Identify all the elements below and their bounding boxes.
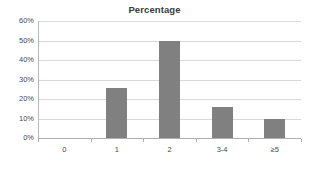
y-axis-tick-label: 0% [2,134,34,142]
x-axis-tick-label: 0 [62,145,66,154]
x-axis-tick-label: ≥5 [271,145,279,154]
x-axis-tick-mark [248,139,249,142]
bar [106,88,127,138]
x-axis-tick-label: 1 [115,145,119,154]
x-axis-tick-mark [196,139,197,142]
y-axis-tick-label: 60% [2,17,34,25]
x-axis-tick-mark [301,139,302,142]
x-axis-tick-mark [38,139,39,142]
bar-chart: Percentage 0%10%20%30%40%50%60% 0123-4≥5 [0,0,309,170]
x-axis-line [38,138,301,139]
y-axis-tick-label: 50% [2,37,34,45]
y-axis-tick-label: 10% [2,115,34,123]
chart-title: Percentage [0,4,309,15]
x-axis-tick-mark [91,139,92,142]
x-axis-tick-label: 3-4 [217,145,228,154]
y-axis-tick-label: 40% [2,56,34,64]
bar [264,119,285,139]
y-axis-tick-labels: 0%10%20%30%40%50%60% [0,0,34,170]
y-axis-tick-label: 20% [2,95,34,103]
bar [159,41,180,138]
x-axis-tick-mark [143,139,144,142]
y-axis-tick-label: 30% [2,76,34,84]
bars-layer [38,21,301,138]
x-axis-tick-label: 2 [167,145,171,154]
bar [212,107,233,138]
